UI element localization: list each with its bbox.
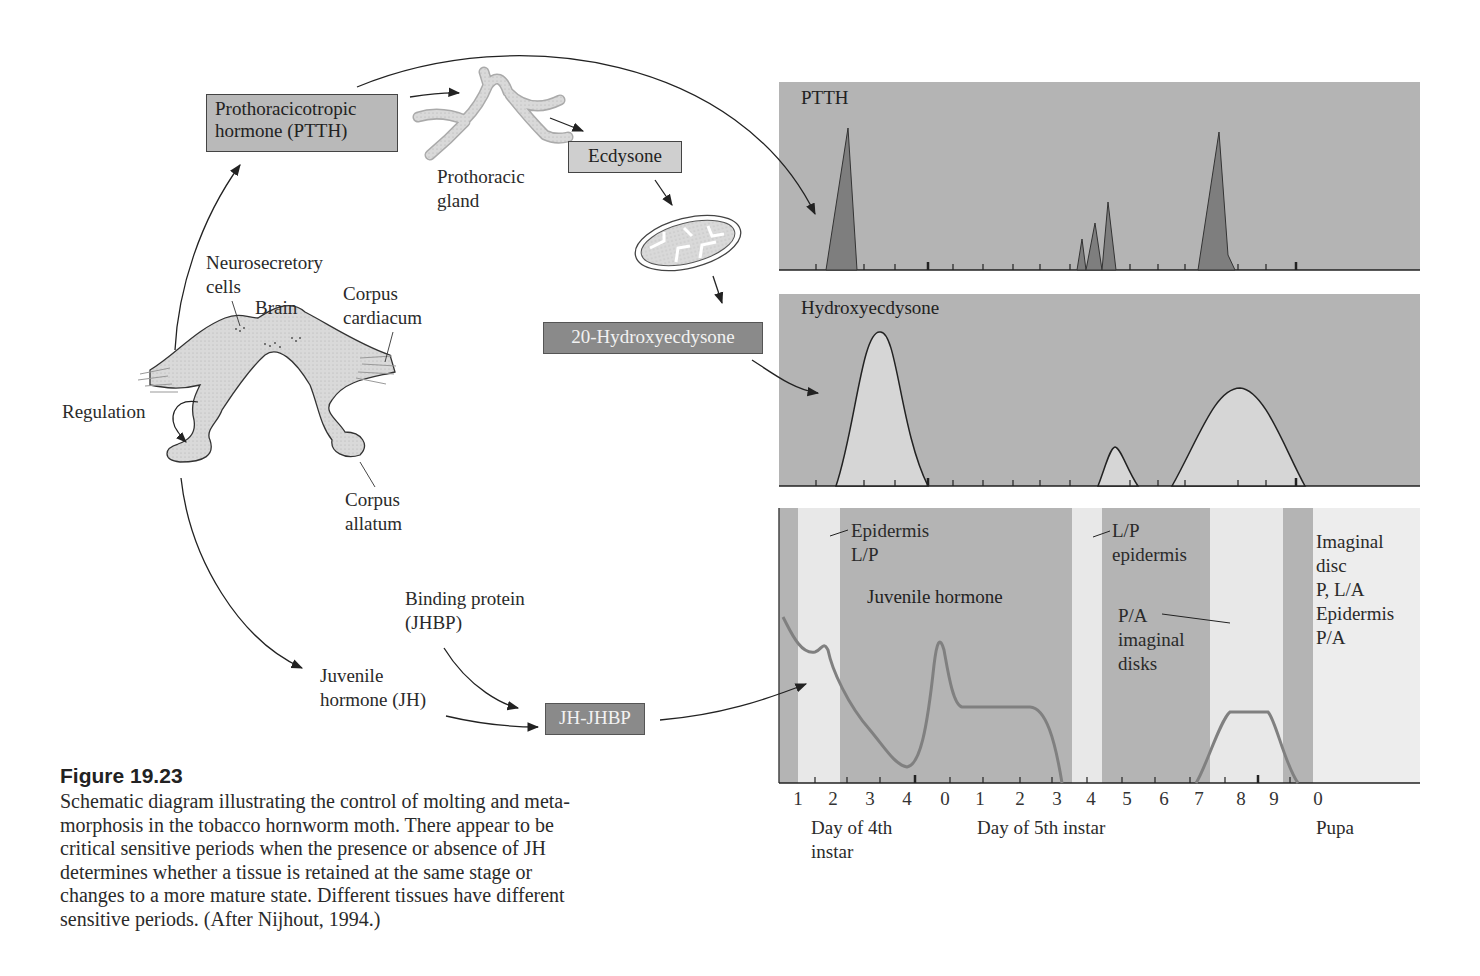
arrow-ptth-to-panel <box>357 56 815 214</box>
caption-line: sensitive periods. (After Nijhout, 1994.… <box>60 908 760 932</box>
jh-jhbp-box: JH-JHBP <box>545 703 645 735</box>
hydroxyecdysone-panel <box>779 294 1420 486</box>
tick-label: 9 <box>1264 788 1284 810</box>
corpus-cardiacum-label: Corpus cardiacum <box>343 282 422 330</box>
figure-caption: Schematic diagram illustrating the contr… <box>60 790 760 931</box>
annotation-pa-imaginal-disks: P/A imaginal disks <box>1118 604 1184 676</box>
ptth-box-line2: hormone (PTTH) <box>215 120 389 142</box>
caption-line: morphosis in the tobacco hornworm moth. … <box>60 814 760 838</box>
corpus-allatum-label: Corpus allatum <box>345 488 402 536</box>
tick-label: 1 <box>970 788 990 810</box>
arrow-jhbp-to-complex <box>444 648 518 708</box>
tick-label: 0 <box>935 788 955 810</box>
annotation-imaginal-disc-epidermis: Imaginal disc P, L/A Epidermis P/A <box>1316 530 1394 650</box>
prothoracic-gland-label: Prothoracic gland <box>437 165 525 213</box>
ptth-box: Prothoracicotropic hormone (PTTH) <box>206 94 398 152</box>
figure-number: Figure 19.23 <box>60 764 183 788</box>
caption-line: critical sensitive periods when the pres… <box>60 837 760 861</box>
tick-label: 4 <box>897 788 917 810</box>
hydroxyecdysone-panel-title: Hydroxyecdysone <box>801 297 939 319</box>
arrow-ptth-to-gland <box>410 93 459 97</box>
caption-line: Schematic diagram illustrating the contr… <box>60 790 760 814</box>
sensitive-band <box>1210 508 1283 783</box>
caption-line: changes to a more mature state. Differen… <box>60 884 760 908</box>
jh-jhbp-label: JH-JHBP <box>559 707 631 728</box>
tick-label: 4 <box>1081 788 1101 810</box>
ptth-panel-title: PTTH <box>801 87 849 109</box>
ecdysone-box: Ecdysone <box>568 141 682 173</box>
arrow-ecdysone-to-cell <box>655 180 672 205</box>
tick-label: 1 <box>788 788 808 810</box>
tick-label: 3 <box>860 788 880 810</box>
neurosecretory-cells-label: Neurosecretory cells <box>206 251 323 299</box>
binding-protein-label: Binding protein (JHBP) <box>405 587 525 635</box>
tick-label: 5 <box>1117 788 1137 810</box>
tick-label: 6 <box>1154 788 1174 810</box>
axis-group-day-4th: Day of 4th instar <box>811 816 892 864</box>
hydroxyecdysone-box: 20-Hydroxyecdysone <box>543 322 763 354</box>
prothoracic-gland-icon <box>418 72 568 155</box>
tick-label: 8 <box>1231 788 1251 810</box>
annotation-epidermis-lp: Epidermis L/P <box>851 519 929 567</box>
brain-label: Brain <box>255 296 297 320</box>
tick-label: 2 <box>1010 788 1030 810</box>
regulation-label: Regulation <box>62 400 145 424</box>
arrow-brain-to-jh <box>181 478 302 668</box>
arrow-cell-to-hydroxyecdysone <box>713 276 722 303</box>
tick-label: 7 <box>1189 788 1209 810</box>
arrow-jh-to-complex <box>446 716 538 727</box>
juvenile-hormone-label: Juvenile hormone (JH) <box>320 664 426 712</box>
annotation-lp-epidermis: L/P epidermis <box>1112 519 1187 567</box>
hydroxyecdysone-label: 20-Hydroxyecdysone <box>571 326 735 347</box>
ecdysone-label: Ecdysone <box>588 145 662 166</box>
tick-label: 3 <box>1047 788 1067 810</box>
ptth-panel <box>779 82 1420 270</box>
mitochondrion-cell-icon <box>630 206 747 281</box>
juvenile-hormone-panel-title: Juvenile hormone <box>867 586 1003 608</box>
sensitive-band <box>1072 508 1102 783</box>
axis-group-pupa: Pupa <box>1316 816 1354 840</box>
axis-group-day-5th: Day of 5th instar <box>977 816 1105 840</box>
ptth-box-line1: Prothoracicotropic <box>215 98 389 120</box>
tick-label: 2 <box>823 788 843 810</box>
sensitive-band <box>798 508 840 783</box>
arrow-gland-to-ecdysone <box>550 118 583 131</box>
tick-label: 0 <box>1308 788 1328 810</box>
caption-line: determines whether a tissue is retained … <box>60 861 760 885</box>
